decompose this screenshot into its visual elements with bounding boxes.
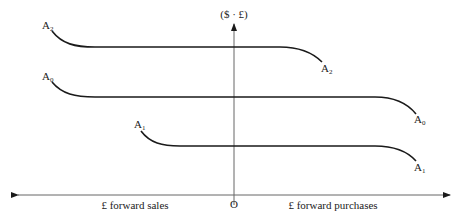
label-a0-left: A0 <box>42 70 54 84</box>
label-a2-right: A2 <box>321 62 333 76</box>
label-a1-left: A1 <box>134 118 146 132</box>
diagram-canvas: ($ · £) A2 A2 A0 A0 A1 A1 O £ forward sa… <box>0 0 462 222</box>
y-axis-label: ($ · £) <box>220 8 248 21</box>
label-a0-right: A0 <box>414 113 426 127</box>
x-axis-left-label: £ forward sales <box>101 199 168 211</box>
x-axis-right-label: £ forward purchases <box>288 199 377 211</box>
origin-label: O <box>230 198 238 210</box>
label-a1-right: A1 <box>414 161 426 175</box>
curve-a2 <box>52 31 322 62</box>
curve-a1 <box>141 131 416 161</box>
label-a2-left: A2 <box>42 19 54 33</box>
